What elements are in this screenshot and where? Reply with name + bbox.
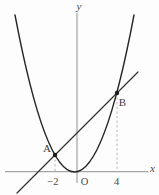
graph-canvas: y x O −2 4 A B (0, 0, 159, 195)
tick-label-4: 4 (114, 176, 120, 187)
origin-label: O (81, 176, 89, 187)
tick-label-minus2: −2 (47, 176, 58, 187)
point-B-dot (115, 91, 119, 95)
y-axis-label: y (76, 0, 82, 12)
point-A-dot (53, 153, 57, 157)
function-graph-figure: y x O −2 4 A B (0, 0, 159, 195)
point-A-label: A (43, 142, 51, 154)
x-axis-label: x (149, 162, 155, 174)
point-B-label: B (119, 96, 126, 108)
